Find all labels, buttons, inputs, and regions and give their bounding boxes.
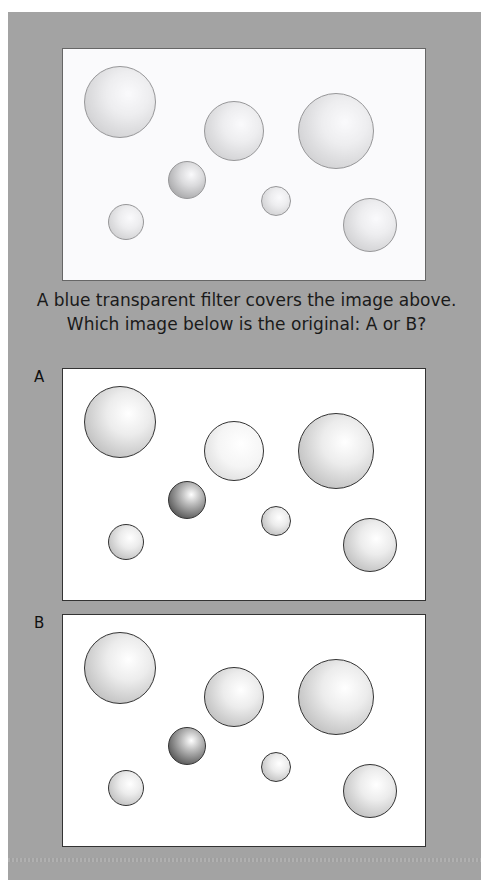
sphere-4 xyxy=(168,161,206,199)
sphere-4 xyxy=(168,481,206,519)
sphere-7 xyxy=(343,198,397,252)
sphere-3 xyxy=(298,93,374,169)
sphere-5 xyxy=(261,506,291,536)
sphere-6 xyxy=(108,524,144,560)
sphere-7 xyxy=(343,518,397,572)
sphere-3 xyxy=(298,659,374,735)
sphere-1 xyxy=(84,386,156,458)
sphere-5 xyxy=(261,752,291,782)
option-a-label: A xyxy=(34,368,44,386)
sphere-4 xyxy=(168,727,206,765)
option-b-image[interactable] xyxy=(62,614,426,847)
sphere-1 xyxy=(84,66,156,138)
sphere-5 xyxy=(261,186,291,216)
sphere-1 xyxy=(84,632,156,704)
question-line-1: A blue transparent filter covers the ima… xyxy=(0,288,493,312)
sphere-6 xyxy=(108,770,144,806)
decorative-strip xyxy=(8,858,481,862)
option-a-image[interactable] xyxy=(62,368,426,601)
sphere-6 xyxy=(108,204,144,240)
option-b-label: B xyxy=(34,614,44,632)
sphere-3 xyxy=(298,413,374,489)
sphere-2 xyxy=(204,101,264,161)
question-line-2: Which image below is the original: A or … xyxy=(0,312,493,336)
sphere-7 xyxy=(343,764,397,818)
sphere-2 xyxy=(204,667,264,727)
filtered-image xyxy=(62,48,426,281)
sphere-2 xyxy=(204,421,264,481)
